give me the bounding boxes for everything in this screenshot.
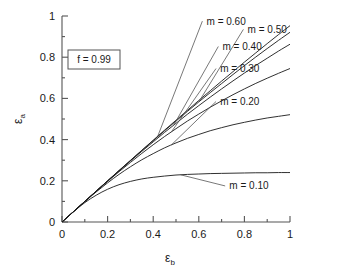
curve-labels: m = 0.10m = 0.20m = 0.30m = 0.40m = 0.50… xyxy=(207,16,288,192)
leader-0.3 xyxy=(171,69,216,132)
chart-figure: 00.20.40.60.8100.20.40.60.81 m = 0.10m =… xyxy=(0,0,338,274)
y-axis-title-sub: a xyxy=(18,114,27,119)
y-tick-label: 1 xyxy=(49,10,55,22)
y-tick-label: 0.2 xyxy=(40,175,55,187)
curve-label-0.2: m = 0.20 xyxy=(220,96,260,107)
x-axis-title-text: εb xyxy=(165,251,175,267)
y-axis-title: εa xyxy=(11,114,27,124)
x-tick-label: 0 xyxy=(59,228,65,240)
curve-label-0.1: m = 0.10 xyxy=(229,180,269,191)
y-tick-label: 0.4 xyxy=(40,134,55,146)
curve-label-0.6: m = 0.60 xyxy=(207,16,247,27)
x-tick-label: 0.2 xyxy=(100,228,115,240)
annotation-f-value: f = 0.99 xyxy=(68,50,120,69)
chart-svg: 00.20.40.60.8100.20.40.60.81 m = 0.10m =… xyxy=(0,0,338,274)
annotation-text: f = 0.99 xyxy=(77,54,111,65)
x-tick-label: 1 xyxy=(287,228,293,240)
leader-0.2 xyxy=(171,101,216,144)
leader-0.4 xyxy=(174,46,219,125)
y-tick-label: 0.6 xyxy=(40,92,55,104)
x-axis-title-sub: b xyxy=(170,258,175,267)
curve-label-0.5: m = 0.50 xyxy=(248,24,288,35)
x-axis-title: εb xyxy=(165,251,175,267)
y-tick-label: 0.8 xyxy=(40,51,55,63)
x-tick-label: 0.4 xyxy=(146,228,161,240)
curve-label-0.3: m = 0.30 xyxy=(220,63,260,74)
y-tick-label: 0 xyxy=(49,216,55,228)
leader-0.1 xyxy=(181,175,226,186)
curve-label-0.4: m = 0.40 xyxy=(223,41,263,52)
curve-0.2 xyxy=(62,115,290,222)
x-tick-label: 0.6 xyxy=(191,228,206,240)
y-axis-title-text: εa xyxy=(11,114,27,124)
curve-0.3 xyxy=(62,69,290,222)
x-tick-label: 0.8 xyxy=(237,228,252,240)
